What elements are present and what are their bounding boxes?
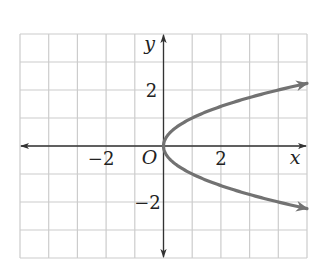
x-tick-label: −2	[88, 148, 115, 169]
parabola-graph: yxO−222−2	[0, 0, 319, 280]
y-tick-label: 2	[146, 80, 157, 101]
x-tick-label: 2	[215, 148, 226, 169]
y-tick-label: −2	[134, 192, 161, 213]
origin-label: O	[142, 146, 158, 168]
curve-upper-branch	[164, 83, 308, 146]
y-axis-label: y	[143, 32, 155, 54]
x-axis-label: x	[290, 146, 301, 168]
labels: yxO−222−2	[88, 32, 301, 213]
curve-lower-branch	[164, 146, 308, 209]
